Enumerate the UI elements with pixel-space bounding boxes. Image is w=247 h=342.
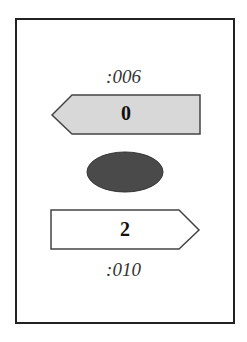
- center-ellipse: [85, 151, 165, 193]
- top-box-value: 0: [50, 102, 202, 125]
- bottom-label: :010: [0, 259, 247, 281]
- bottom-box-value: 2: [49, 218, 201, 241]
- top-label: :006: [0, 66, 247, 88]
